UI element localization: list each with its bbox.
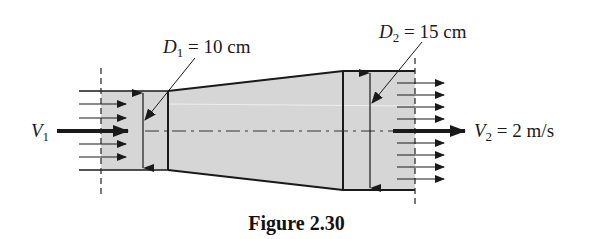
v1-subscript: 1 — [43, 129, 50, 144]
d2-label: D2 = 15 cm — [379, 22, 466, 44]
v2-symbol: V — [474, 120, 486, 141]
v1-symbol: V — [31, 120, 43, 141]
d1-label: D1 = 10 cm — [163, 37, 250, 59]
v1-label: V1 — [31, 121, 49, 143]
d1-symbol: D — [163, 36, 177, 57]
d2-symbol: D — [379, 21, 393, 42]
v2-label: V2 = 2 m/s — [474, 121, 554, 143]
d2-value: = 15 cm — [399, 21, 466, 42]
figure-caption: Figure 2.30 — [0, 212, 593, 235]
d1-value: = 10 cm — [183, 36, 250, 57]
v2-value: = 2 m/s — [492, 120, 554, 141]
